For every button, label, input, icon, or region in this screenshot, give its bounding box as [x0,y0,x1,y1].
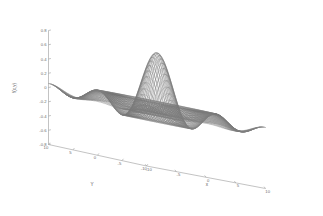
x-tick-label: -10 [146,167,153,172]
x-tick-label: -5 [177,172,181,177]
y-tick-label: 5 [69,150,72,155]
tick-mark [49,59,51,60]
tick-mark [49,73,51,74]
tick-mark [49,116,51,117]
tick-mark [49,101,51,102]
z-tick-label: 0.8 [41,28,47,33]
plot-canvas: 0.80.60.40.20-0.2-0.4-0.6-0.81050-5-10-1… [0,0,323,216]
y-tick-label: 10 [44,145,49,150]
tick-mark [49,44,51,45]
z-tick-label: 0.4 [41,57,47,62]
figure-3d-surface-plot: 0.80.60.40.20-0.2-0.4-0.6-0.81050-5-10-1… [0,0,323,216]
tick-mark [49,87,51,88]
z-tick-label: 0 [44,85,47,90]
y-axis-label: Y [90,182,93,187]
tick-mark [49,130,51,131]
z-tick-label: -0.2 [39,99,47,104]
y-tick-label: -5 [118,161,122,166]
z-axis-label: f(x,y) [12,82,17,93]
z-tick-label: 0.2 [41,71,47,76]
z-tick-label: -0.4 [39,114,47,119]
x-tick-label: 5 [237,183,240,188]
z-tick-label: -0.6 [39,128,47,133]
y-tick-label: 0 [94,155,97,160]
tick-mark [122,159,123,161]
tick-mark [49,30,51,31]
tick-mark [73,148,74,150]
x-tick-label: 10 [265,189,270,194]
surface-mesh [49,53,266,132]
tick-mark [98,153,99,155]
z-tick-label: 0.6 [41,42,47,47]
